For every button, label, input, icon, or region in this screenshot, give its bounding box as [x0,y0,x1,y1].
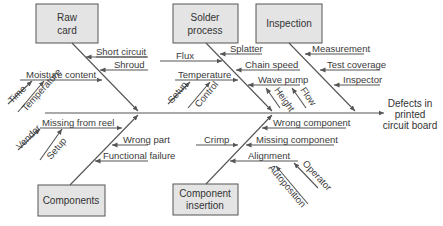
inspection-label: Inspection [266,18,312,29]
cause-wave-pump: Wave pump [258,74,308,85]
cause-missing-from-reel: Missing from reel [42,117,114,128]
sub-cause-height: Height [272,85,297,114]
raw-card-box [36,4,98,43]
solder-process-label-2: process [187,25,222,36]
cause-test-coverage: Test coverage [327,59,386,70]
solder-process-box [173,4,238,43]
category-component-insertion: Component insertion Crimp Wrong componen… [173,115,351,215]
cause-temperature: Temperature [178,69,231,80]
component-insertion-label-2: insertion [186,200,224,211]
component-insertion-label-1: Component [179,188,231,199]
effect-line3: circuit board [383,120,437,131]
cause-wrong-component: Wrong component [273,117,351,128]
category-components: Components Missing from reel Wrong part … [14,115,176,216]
cause-wrong-part: Wrong part [123,134,170,145]
category-raw-card: Raw card Short circuit Shroud Moisture c… [6,4,148,113]
sub-cause-setup: Setup [165,79,189,105]
cause-missing-component: Missing component [256,134,338,145]
cause-flux: Flux [176,50,194,61]
cause-splatter: Splatter [230,43,263,54]
cause-short-circuit: Short circuit [96,46,147,57]
fishbone-diagram: Defects in printed circuit board Raw car… [0,0,443,226]
cause-inspector: Inspector [343,74,382,85]
sub-cause-control: Control [192,79,220,110]
sub-cause-flow: Flow [298,85,319,108]
cause-shroud: Shroud [114,59,145,70]
cause-measurement: Measurement [312,43,370,54]
cause-functional-failure: Functional failure [103,150,175,161]
cause-crimp: Crimp [204,134,229,145]
sub-cause-vendor: Vendor [14,122,43,151]
effect-line2: printed [395,109,426,120]
raw-card-label-2: card [57,25,76,36]
components-label: Components [43,195,100,206]
raw-card-label-1: Raw [57,12,78,23]
cause-chain-speed: Chain speed [245,59,298,70]
effect-line1: Defects in [388,98,432,109]
cause-alignment: Alignment [248,150,291,161]
solder-process-label-1: Solder [191,12,221,23]
sub-cause-autoposition: Autoposition [266,162,308,209]
